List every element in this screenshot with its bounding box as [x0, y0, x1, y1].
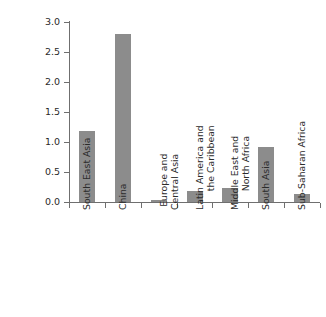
- x-axis-tick: [105, 203, 106, 208]
- x-axis-category-label: Latin America and the Caribbean: [195, 125, 216, 210]
- x-axis-tick: [320, 203, 321, 208]
- x-axis-tick: [69, 203, 70, 208]
- bar-chart-figure: Percentage Points 0.00.51.01.52.02.53.0 …: [0, 0, 326, 317]
- x-axis-category-label: Middle East and North Africa: [230, 136, 251, 210]
- y-axis-tick-label: 2.5: [20, 47, 60, 57]
- x-axis-tick: [141, 203, 142, 208]
- x-axis-category-label: South Asia: [261, 161, 272, 210]
- y-axis-tick-label: 1.5: [20, 107, 60, 117]
- y-axis-tick-label: 1.0: [20, 137, 60, 147]
- bar: [115, 34, 131, 202]
- x-axis-category-label: Europe and Central Asia: [159, 154, 180, 210]
- y-axis-tick-label: 2.0: [20, 77, 60, 87]
- x-axis-tick: [284, 203, 285, 208]
- x-axis-category-label: South East Asia: [82, 138, 93, 210]
- y-axis-tick-label: 0.5: [20, 167, 60, 177]
- y-axis-tick-label: 3.0: [20, 17, 60, 27]
- x-axis-category-label: China: [118, 183, 129, 210]
- y-axis-tick-label: 0.0: [20, 197, 60, 207]
- x-axis-category-label: Sub-Saharan Africa: [297, 121, 308, 210]
